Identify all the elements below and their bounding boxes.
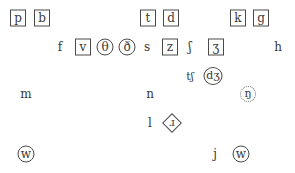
phoneme-ezh-boxed: ʒ xyxy=(208,39,224,56)
phoneme-dezh-circled: dʒ xyxy=(204,67,223,85)
phoneme-esh: ʃ xyxy=(188,41,191,53)
phoneme-n: n xyxy=(146,88,154,100)
phoneme-k-boxed: k xyxy=(230,10,246,27)
phoneme-z-boxed: z xyxy=(162,39,178,56)
phoneme-d-boxed: d xyxy=(163,10,179,27)
phoneme-s: s xyxy=(144,41,150,53)
phoneme-v-boxed: v xyxy=(75,39,91,56)
phoneme-chart: p b t d k g f v θ ð s z ʃ ʒ h tʃ dʒ m n … xyxy=(0,0,295,173)
phoneme-turned-r-diamond: ɹ xyxy=(161,112,183,134)
phoneme-b-boxed: b xyxy=(34,10,50,27)
phoneme-turned-r-glyph: ɹ xyxy=(169,117,175,130)
phoneme-l: l xyxy=(148,117,152,129)
phoneme-g-boxed: g xyxy=(253,10,269,27)
phoneme-theta-circled: θ xyxy=(97,39,114,56)
phoneme-w-left-circled: w xyxy=(18,146,35,163)
phoneme-f: f xyxy=(58,41,62,53)
phoneme-p-boxed: p xyxy=(10,10,26,27)
phoneme-h: h xyxy=(274,41,282,53)
phoneme-m: m xyxy=(20,88,31,100)
phoneme-j: j xyxy=(213,148,217,160)
phoneme-eng-dotted-circled: ŋ xyxy=(240,86,256,102)
phoneme-t-boxed: t xyxy=(140,10,156,27)
phoneme-w-right-circled: w xyxy=(233,146,250,163)
phoneme-eth-circled: ð xyxy=(119,39,136,56)
phoneme-tesh: tʃ xyxy=(186,71,193,82)
